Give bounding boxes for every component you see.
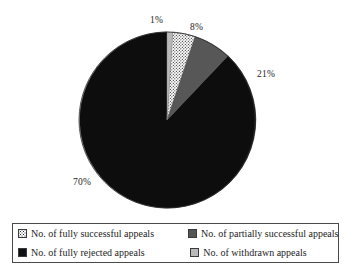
legend-swatch-icon (18, 229, 27, 238)
legend-item-partially-successful[interactable]: No. of partially successful appeals (188, 229, 338, 239)
pie-label-partially-successful: 21% (257, 70, 275, 80)
legend-label: No. of partially successful appeals (201, 229, 338, 239)
pie-svg (0, 0, 356, 218)
pie-chart-figure: 1% 8% 21% 70% No. of fully successful ap… (0, 0, 356, 274)
chart-legend: No. of fully successful appeals No. of p… (12, 223, 339, 263)
legend-swatch-icon (18, 248, 27, 257)
pie-label-withdrawn: 1% (150, 16, 163, 26)
legend-row: No. of fully rejected appeals No. of wit… (13, 243, 338, 262)
legend-item-withdrawn[interactable]: No. of withdrawn appeals (190, 248, 338, 258)
legend-swatch-icon (190, 248, 199, 257)
legend-label: No. of fully successful appeals (31, 229, 154, 239)
pie-plot-area: 1% 8% 21% 70% (0, 0, 356, 218)
legend-row: No. of fully successful appeals No. of p… (13, 224, 338, 243)
legend-item-fully-rejected[interactable]: No. of fully rejected appeals (18, 248, 190, 258)
legend-label: No. of fully rejected appeals (31, 248, 145, 258)
legend-label: No. of withdrawn appeals (203, 248, 306, 258)
pie-label-fully-successful: 8% (190, 23, 203, 33)
legend-swatch-icon (188, 229, 197, 238)
pie-label-fully-rejected: 70% (73, 178, 91, 188)
legend-item-fully-successful[interactable]: No. of fully successful appeals (18, 229, 188, 239)
